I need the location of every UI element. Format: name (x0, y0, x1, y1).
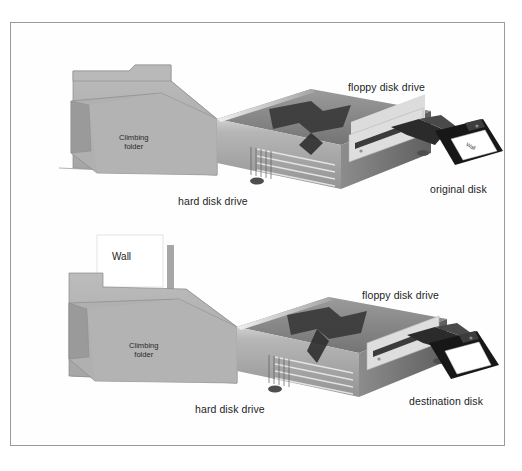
panel-copy-from-original-disk: Climbing folder Wall floppy disk drive h… (11, 23, 506, 231)
folder-graphic (69, 273, 237, 383)
top-panel-artwork (11, 23, 506, 231)
caption-destination-disk: destination disk (409, 395, 483, 407)
caption-floppy-disk-drive-top: floppy disk drive (348, 81, 425, 93)
folder-label-top: Climbing folder (119, 133, 149, 152)
caption-hard-disk-drive-top: hard disk drive (178, 195, 248, 207)
computer-case-graphic (237, 297, 447, 397)
panel-copy-to-destination-disk: Wall Climbing folder floppy disk drive h… (11, 231, 506, 439)
folder-label-line2: folder (124, 142, 143, 151)
folder-label-line1: Climbing (119, 133, 149, 142)
caption-hard-disk-drive-bottom: hard disk drive (195, 403, 265, 415)
caption-original-disk: original disk (430, 183, 487, 195)
folder-label-bottom: Climbing folder (129, 341, 159, 360)
figure-border: Climbing folder Wall floppy disk drive h… (10, 22, 505, 446)
wall-paper-label: Wall (112, 251, 131, 262)
caption-floppy-disk-drive-bottom: floppy disk drive (362, 289, 439, 301)
folder-graphic (71, 65, 217, 175)
computer-case-graphic (217, 89, 431, 189)
folder-label-line1: Climbing (129, 341, 159, 350)
folder-label-line2: folder (134, 350, 153, 359)
wall-paper-graphic (97, 235, 174, 289)
